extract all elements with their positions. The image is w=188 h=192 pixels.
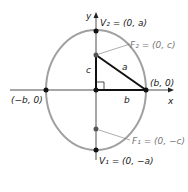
- vertex-v1-point: [94, 148, 99, 153]
- focus-f2-point: [94, 53, 99, 58]
- left-vertex-point: [44, 88, 49, 93]
- v1-label: V₁ = (0, −a): [99, 156, 154, 166]
- y-axis-arrow-icon: [94, 12, 99, 18]
- f1-label: F₁ = (0, −c): [132, 136, 185, 146]
- f2-pointer: [99, 44, 130, 54]
- side-b-label: b: [124, 95, 130, 105]
- f2-label: F₂ = (0, c): [130, 40, 175, 50]
- x-axis-arrow-icon: [168, 88, 174, 93]
- ellipse-diagram: y x V₂ = (0, a) F₂ = (0, c) c a b (b, 0)…: [0, 0, 188, 192]
- y-axis-label: y: [85, 11, 92, 21]
- vertex-v2-point: [94, 29, 99, 34]
- left-vertex-label: (−b, 0): [11, 95, 43, 105]
- origin-point: [94, 88, 99, 93]
- side-c-label: c: [86, 65, 91, 75]
- right-vertex-label: (b, 0): [150, 78, 174, 88]
- side-a-label: a: [122, 62, 128, 72]
- focus-f1-point: [94, 127, 99, 132]
- f1-pointer: [99, 130, 130, 140]
- v2-label: V₂ = (0, a): [100, 18, 147, 28]
- x-axis-label: x: [167, 96, 174, 106]
- right-vertex-point: [144, 88, 149, 93]
